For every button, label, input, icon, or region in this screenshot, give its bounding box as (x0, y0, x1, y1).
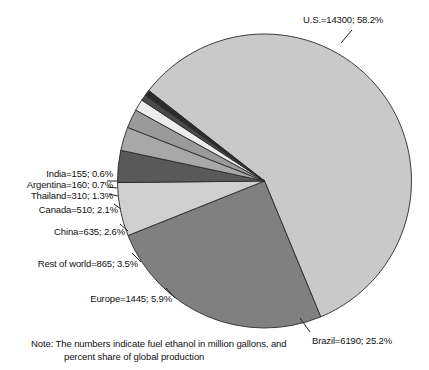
chart-note-line-1: Note: The numbers indicate fuel ethanol … (31, 338, 286, 351)
slice-label-rest-of-world: Rest of world=865; 3.5% (0, 258, 138, 269)
leader-line-us (341, 30, 352, 43)
slice-label-india: India=155; 0.6% (0, 168, 113, 179)
chart-note: Note: The numbers indicate fuel ethanol … (31, 338, 286, 363)
slice-label-brazil: Brazil=6190; 25.2% (312, 335, 392, 346)
slice-label-argentina: Argentina=160; 0.7% (0, 179, 113, 190)
pie-chart-figure: U.S.=14300; 58.2%Brazil=6190; 25.2%Europ… (0, 0, 429, 370)
pie-slice-group: U.S.=14300; 58.2%Brazil=6190; 25.2%Europ… (118, 34, 412, 328)
slice-label-europe: Europe=1445; 5.9% (0, 293, 172, 304)
slice-label-thailand: Thailand=310; 1.3% (0, 190, 113, 201)
chart-note-line-2: percent share of global production (31, 351, 286, 364)
slice-label-us: U.S.=14300; 58.2% (303, 14, 383, 25)
slice-label-canada: Canada=510; 2.1% (0, 204, 118, 215)
slice-label-china: China=635; 2.6% (0, 226, 125, 237)
